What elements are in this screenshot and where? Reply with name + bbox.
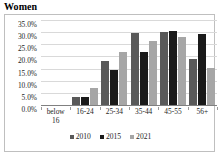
bar-group (100, 20, 129, 105)
bar-group (70, 20, 99, 105)
y-axis-tick-label: 5.0% (22, 94, 37, 101)
bar (119, 52, 127, 105)
x-axis-tickmark (41, 107, 42, 110)
chart-title: Women (4, 1, 37, 13)
bar (81, 97, 89, 105)
chart-plot-frame: 0.0%5.0%10.0%15.0%20.0%25.0%30.0%35.0% b… (4, 14, 215, 152)
x-axis-tickmark (100, 107, 101, 110)
y-axis-tick-label: 35.0% (18, 21, 37, 28)
legend-label: 2010 (76, 133, 91, 141)
legend-label: 2021 (136, 133, 151, 141)
bar-group (158, 20, 187, 105)
y-axis-tick-label: 25.0% (18, 46, 37, 53)
y-axis-tick-label: 10.0% (18, 82, 37, 89)
bar (149, 41, 157, 105)
bar (169, 31, 177, 105)
legend-item[interactable]: 2015 (100, 133, 121, 141)
bar (140, 52, 148, 105)
bar (178, 37, 186, 105)
bar-group (129, 20, 158, 105)
y-axis-tick-label: 20.0% (18, 58, 37, 65)
x-axis-tick-label: 35-44 (129, 107, 158, 116)
bar-group (41, 20, 70, 105)
bar (101, 61, 109, 105)
legend-swatch-icon (130, 135, 134, 139)
y-axis-tick-label: 15.0% (18, 70, 37, 77)
legend-label: 2015 (106, 133, 121, 141)
bar (207, 68, 215, 105)
x-axis-tick-label: 16-24 (70, 107, 99, 116)
x-axis-tickmark (158, 107, 159, 110)
x-axis-tickmark (70, 107, 71, 110)
bar (189, 59, 197, 105)
x-axis-tick-label: 25-34 (100, 107, 129, 116)
y-axis-tick-label: 0.0% (22, 106, 37, 113)
chart-legend: 201020152021 (5, 133, 216, 141)
legend-item[interactable]: 2021 (130, 133, 151, 141)
x-axis-tick-label: 56+ (188, 107, 217, 116)
bar (131, 33, 139, 105)
x-axis-line (41, 105, 217, 106)
x-axis-labels: below 1616-2425-3435-4445-5556+ (41, 107, 217, 131)
x-axis-tickmark (188, 107, 189, 110)
legend-swatch-icon (100, 135, 104, 139)
plot-area (41, 20, 217, 105)
bar-group (188, 20, 217, 105)
x-axis-tickmark (217, 107, 218, 110)
bar (90, 88, 98, 105)
x-axis-tickmark (129, 107, 130, 110)
bar (110, 70, 118, 105)
chart-figure: Women 0.0%5.0%10.0%15.0%20.0%25.0%30.0%3… (0, 0, 219, 155)
bar (72, 97, 80, 105)
x-axis-tick-label: below 16 (41, 107, 70, 125)
legend-swatch-icon (70, 135, 74, 139)
bar (198, 34, 206, 105)
legend-item[interactable]: 2010 (70, 133, 91, 141)
y-axis-labels: 0.0%5.0%10.0%15.0%20.0%25.0%30.0%35.0% (5, 20, 39, 105)
bar (160, 32, 168, 105)
x-axis-tick-label: 45-55 (158, 107, 187, 116)
y-axis-tick-label: 30.0% (18, 33, 37, 40)
